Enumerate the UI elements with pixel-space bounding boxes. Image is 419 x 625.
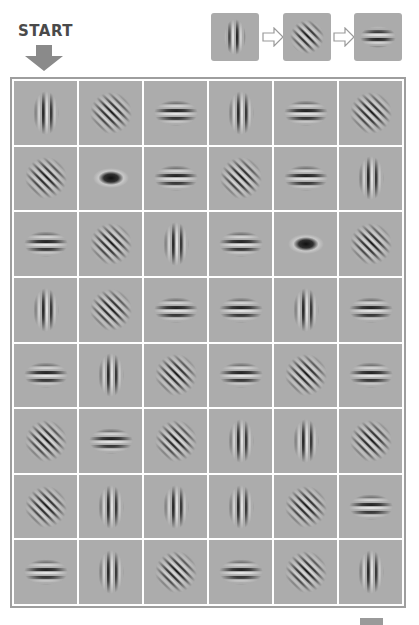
diagonal-gabor-icon — [149, 545, 203, 599]
grid-cell-r6-c2[interactable] — [79, 409, 142, 473]
grid-cell-r8-c1[interactable] — [14, 540, 77, 604]
grid-cell-r8-c2[interactable] — [79, 540, 142, 604]
grid-cell-r6-c6[interactable] — [339, 409, 402, 473]
grid-cell-r5-c1[interactable] — [14, 344, 77, 408]
grid-cell-r2-c2[interactable] — [79, 147, 142, 211]
grid-cell-r4-c3[interactable] — [144, 278, 207, 342]
grid-cell-r6-c3[interactable] — [144, 409, 207, 473]
vertical-gabor-icon — [279, 283, 333, 337]
grid-cell-r7-c4[interactable] — [209, 475, 272, 539]
grid-cell-r6-c4[interactable] — [209, 409, 272, 473]
horizontal-gabor-icon — [279, 86, 333, 140]
horizontal-gabor-icon — [214, 283, 268, 337]
diagonal-gabor-icon — [285, 15, 329, 59]
grid-cell-r8-c3[interactable] — [144, 540, 207, 604]
diagonal-gabor-icon — [279, 348, 333, 402]
horizontal-gabor-icon — [84, 414, 138, 468]
grid-cell-r4-c4[interactable] — [209, 278, 272, 342]
diagonal-gabor-icon — [214, 151, 268, 205]
horizontal-gabor-icon — [19, 217, 73, 271]
grid-cell-r8-c4[interactable] — [209, 540, 272, 604]
diagonal-gabor-icon — [344, 86, 398, 140]
grid-cell-r5-c3[interactable] — [144, 344, 207, 408]
grid-cell-r3-c5[interactable] — [274, 212, 337, 276]
horizontal-gabor-icon — [214, 217, 268, 271]
grid-cell-r1-c5[interactable] — [274, 81, 337, 145]
grid-cell-r3-c4[interactable] — [209, 212, 272, 276]
grid-cell-r4-c5[interactable] — [274, 278, 337, 342]
grid-cell-r4-c6[interactable] — [339, 278, 402, 342]
diagonal-gabor-icon — [344, 414, 398, 468]
horizontal-gabor-icon — [149, 86, 203, 140]
vertical-gabor-icon — [84, 545, 138, 599]
vertical-gabor-icon — [19, 283, 73, 337]
grid-cell-r5-c5[interactable] — [274, 344, 337, 408]
grid-cell-r5-c4[interactable] — [209, 344, 272, 408]
vertical-gabor-icon — [214, 414, 268, 468]
grid-cell-r1-c3[interactable] — [144, 81, 207, 145]
grid-cell-r4-c1[interactable] — [14, 278, 77, 342]
grid-cell-r7-c2[interactable] — [79, 475, 142, 539]
start-label: START — [18, 22, 73, 40]
end-marker — [360, 618, 383, 625]
horizontal-gabor-icon — [214, 348, 268, 402]
grid-cell-r6-c1[interactable] — [14, 409, 77, 473]
grid-cell-r3-c2[interactable] — [79, 212, 142, 276]
grid-cell-r2-c5[interactable] — [274, 147, 337, 211]
grid-cell-r2-c3[interactable] — [144, 147, 207, 211]
legend-vertical-gabor — [211, 13, 259, 61]
grid-cell-r1-c4[interactable] — [209, 81, 272, 145]
grid-cell-r6-c5[interactable] — [274, 409, 337, 473]
horizontal-gabor-icon — [19, 545, 73, 599]
right-arrow-icon — [262, 27, 284, 47]
grid-cell-r1-c1[interactable] — [14, 81, 77, 145]
grid-cell-r5-c2[interactable] — [79, 344, 142, 408]
vertical-gabor-icon — [214, 480, 268, 534]
horizontal-gabor-icon — [214, 545, 268, 599]
horizontal-gabor-icon — [19, 348, 73, 402]
grid-cell-r2-c1[interactable] — [14, 147, 77, 211]
grid-cell-r3-c3[interactable] — [144, 212, 207, 276]
diagonal-gabor-icon — [344, 217, 398, 271]
diagonal-gabor-icon — [149, 414, 203, 468]
grid-cell-r2-c4[interactable] — [209, 147, 272, 211]
diagonal-gabor-icon — [84, 283, 138, 337]
horizontal-gabor-icon — [149, 151, 203, 205]
horizontal-gabor-icon — [344, 480, 398, 534]
diagonal-gabor-icon — [279, 480, 333, 534]
grid-cell-r7-c5[interactable] — [274, 475, 337, 539]
grid-cell-r3-c6[interactable] — [339, 212, 402, 276]
diagonal-gabor-icon — [19, 480, 73, 534]
vertical-gabor-icon — [213, 15, 257, 59]
vertical-gabor-icon — [149, 480, 203, 534]
vertical-gabor-icon — [149, 217, 203, 271]
horizontal-gabor-icon — [356, 15, 400, 59]
vertical-gabor-icon — [344, 151, 398, 205]
vertical-gabor-icon — [279, 414, 333, 468]
grid-cell-r4-c2[interactable] — [79, 278, 142, 342]
grid-cell-r3-c1[interactable] — [14, 212, 77, 276]
grid-cell-r2-c6[interactable] — [339, 147, 402, 211]
legend-diagonal-gabor — [283, 13, 331, 61]
horizontal-gabor-icon — [149, 283, 203, 337]
vertical-gabor-icon — [214, 86, 268, 140]
horizontal-gabor-icon — [344, 348, 398, 402]
vertical-gabor-icon — [19, 86, 73, 140]
gabor-grid — [10, 77, 406, 608]
diagonal-gabor-icon — [84, 217, 138, 271]
start-arrow-icon — [25, 45, 63, 71]
grid-cell-r8-c5[interactable] — [274, 540, 337, 604]
vertical-gabor-icon — [344, 545, 398, 599]
blob-gabor-icon — [279, 217, 333, 271]
grid-cell-r1-c6[interactable] — [339, 81, 402, 145]
grid-cell-r7-c6[interactable] — [339, 475, 402, 539]
diagonal-gabor-icon — [84, 86, 138, 140]
horizontal-gabor-icon — [344, 283, 398, 337]
grid-cell-r7-c3[interactable] — [144, 475, 207, 539]
grid-cell-r7-c1[interactable] — [14, 475, 77, 539]
grid-cell-r5-c6[interactable] — [339, 344, 402, 408]
grid-cell-r8-c6[interactable] — [339, 540, 402, 604]
grid-cell-r1-c2[interactable] — [79, 81, 142, 145]
right-arrow-icon — [333, 27, 355, 47]
horizontal-gabor-icon — [279, 151, 333, 205]
